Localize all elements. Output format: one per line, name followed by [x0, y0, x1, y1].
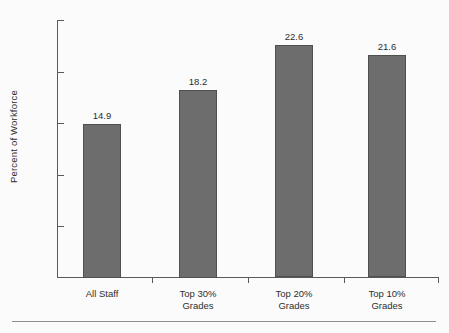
bar-value-top-30-grades: 18.2 [164, 76, 232, 87]
bar-value-top-20-grades: 22.6 [260, 31, 328, 42]
footer-divider-rule [12, 321, 436, 322]
bar-top-30-grades[interactable] [179, 90, 217, 278]
bar-category-all-staff: All Staff [55, 288, 149, 300]
y-axis-tick-15 [58, 123, 64, 124]
x-axis-tick-4 [438, 278, 439, 283]
y-axis-tick-5 [58, 226, 64, 227]
plot-area: 14.9 All Staff 18.2 Top 30% Grades 22.6 … [57, 20, 439, 277]
y-axis-tick-20 [58, 72, 64, 73]
bar-top-10-grades[interactable] [368, 55, 406, 278]
bar-value-all-staff: 14.9 [68, 110, 136, 121]
x-axis-tick-1 [152, 278, 153, 283]
x-axis-tick-3 [344, 278, 345, 283]
bar-category-top-30-grades: Top 30% Grades [151, 288, 245, 311]
bar-category-top-20-grades: Top 20% Grades [247, 288, 341, 311]
bar-top-20-grades[interactable] [275, 45, 313, 278]
bar-category-top-10-grades: Top 10% Grades [340, 288, 434, 311]
x-axis-tick-2 [248, 278, 249, 283]
y-axis-tick-10 [58, 175, 64, 176]
y-axis-line [57, 20, 58, 278]
bar-all-staff[interactable] [83, 124, 121, 278]
bar-value-top-10-grades: 21.6 [353, 41, 421, 52]
y-axis-tick-25 [58, 20, 64, 21]
bar-chart-figure: Percent of Workforce 25 20 15 10 5 0 14.… [0, 0, 449, 333]
y-axis-title: Percent of Workforce [8, 90, 22, 183]
